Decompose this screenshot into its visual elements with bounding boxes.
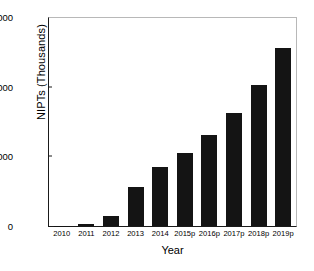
bar-2012[interactable] [103,216,119,226]
bar-2014[interactable] [152,167,168,226]
x-tick-label-2017p: 2017p [222,229,247,238]
x-tick-label-2014: 2014 [148,229,173,238]
y-tick-label-3000: 3,000 [0,12,13,23]
x-tick-label-2011: 2011 [74,229,99,238]
bar-2013[interactable] [128,187,144,226]
bar-slot-2015p [172,17,197,226]
bar-slot-2018p [246,17,271,226]
bar-2019p[interactable] [275,48,291,226]
bar-slot-2017p [222,17,247,226]
bar-2016p[interactable] [201,135,217,226]
y-tick-label-0: 0 [0,221,13,232]
y-axis-title: NIPTs (Thousands) [35,0,47,157]
x-tick-label-2019p: 2019p [271,229,296,238]
bar-2018p[interactable] [251,85,267,226]
bar-series [50,17,296,226]
x-axis-title: Year [48,244,297,256]
bar-2017p[interactable] [226,113,242,226]
bar-slot-2012 [99,17,124,226]
bar-slot-2013 [123,17,148,226]
x-tick-label-2010: 2010 [50,229,75,238]
bar-slot-2016p [197,17,222,226]
bar-slot-2010 [50,17,75,226]
y-tick-label-2000: 2,000 [0,81,13,92]
x-tick-label-2013: 2013 [123,229,148,238]
bar-slot-2019p [271,17,296,226]
x-tick-label-2018p: 2018p [246,229,271,238]
bar-slot-2011 [74,17,99,226]
bar-slot-2014 [148,17,173,226]
x-axis-tick-labels: 2010 2011 2012 2013 2014 2015p 2016p 201… [50,229,296,238]
x-tick-label-2012: 2012 [99,229,124,238]
x-tick-label-2016p: 2016p [197,229,222,238]
y-tick-label-1000: 1,000 [0,151,13,162]
bar-chart: NIPTs (Thousands) 3,000 2,000 1,000 0 20… [0,0,314,271]
x-tick-label-2015p: 2015p [172,229,197,238]
bar-2015p[interactable] [177,153,193,226]
bar-2011[interactable] [78,224,94,226]
